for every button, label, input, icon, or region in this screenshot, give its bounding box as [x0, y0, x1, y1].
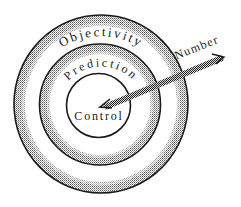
- target-diagram: Objectivity Prediction Control Number: [0, 0, 241, 207]
- number-label: Number: [172, 32, 220, 62]
- inner-circle: [67, 74, 131, 138]
- control-label: Control: [74, 109, 123, 123]
